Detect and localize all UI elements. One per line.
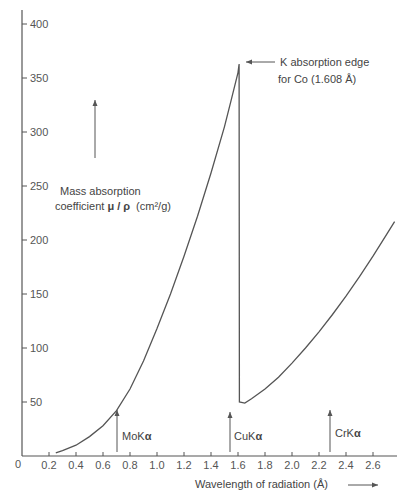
ylabel-line1: Mass absorption [60, 185, 141, 197]
x-tick-label: 2.6 [365, 459, 380, 471]
mo-alpha: α [145, 430, 152, 442]
x-tick-label: 2.0 [284, 459, 299, 471]
y-tick-label: 200 [30, 234, 48, 246]
cr-label: CrKα [335, 427, 361, 439]
mo-arrow-icon-head [115, 410, 120, 416]
x-tick-label: 2.4 [338, 459, 353, 471]
edge-label-line2: for Co (1.608 Å) [278, 73, 356, 85]
xlabel: Wavelength of radiation (Å) [195, 478, 328, 490]
x-tick-label: 1.4 [203, 459, 218, 471]
x-tick-label: 2.2 [311, 459, 326, 471]
ylabel-prefix: coefficient [55, 200, 107, 212]
xlabel-arrow-icon-head [372, 483, 378, 488]
ticks: 0.20.40.60.81.01.21.41.61.82.02.22.42.65… [22, 18, 381, 471]
y-tick-label: 150 [30, 288, 48, 300]
y-tick-label: 350 [30, 72, 48, 84]
ylabel-arrow-icon-head [93, 100, 98, 106]
cr-text: CrK [335, 427, 355, 439]
y-tick-label: 50 [30, 396, 42, 408]
x-tick-label: 1.2 [176, 459, 191, 471]
y-tick-label: 250 [30, 180, 48, 192]
absorption-curve [56, 64, 395, 453]
origin-label: 0 [15, 458, 21, 470]
cr-arrow-icon-head [328, 410, 333, 416]
edge-arrow-icon-head [246, 60, 252, 65]
absorption-chart: 0.20.40.60.81.01.21.41.61.82.02.22.42.65… [0, 0, 408, 503]
cu-label: CuKα [234, 430, 262, 442]
x-tick-label: 1.0 [149, 459, 164, 471]
ylabel-line2: coefficient μ / ρ(cm²/g) [55, 200, 171, 212]
x-tick-label: 0.8 [122, 459, 137, 471]
mo-text: MoK [122, 430, 145, 442]
x-tick-label: 0.2 [41, 459, 56, 471]
x-tick-label: 0.6 [95, 459, 110, 471]
cu-arrow-icon-head [228, 412, 233, 418]
x-tick-label: 1.8 [257, 459, 272, 471]
x-tick-label: 0.4 [68, 459, 83, 471]
ylabel-units: (cm²/g) [136, 200, 171, 212]
mo-label: MoKα [122, 430, 152, 442]
y-tick-label: 100 [30, 342, 48, 354]
ylabel-symbol: μ / ρ [107, 200, 130, 212]
cu-alpha: α [255, 430, 262, 442]
cu-text: CuK [234, 430, 256, 442]
cr-alpha: α [354, 427, 361, 439]
annotations [93, 60, 379, 488]
x-tick-label: 1.6 [230, 459, 245, 471]
y-tick-label: 400 [30, 18, 48, 30]
y-tick-label: 300 [30, 126, 48, 138]
edge-label-line1: K absorption edge [280, 56, 369, 68]
